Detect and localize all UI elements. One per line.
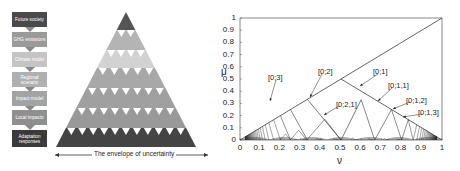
y-tick-label: 0.8 [223,37,234,46]
interval-annotation: [0;1,3] [418,108,439,117]
y-tick-label: 0.1 [223,123,234,132]
interval-annotation: [0;2,1] [336,100,357,109]
y-tick-label: 0.7 [223,50,234,59]
y-tick-label: 0.4 [223,86,234,95]
x-tick-label: 0.7 [375,143,386,152]
interval-annotation: [0;1,2] [406,96,427,105]
x-tick-label: 0.8 [395,143,406,152]
y-tick-label: 0.9 [223,25,234,34]
interval-annotation: [0;1] [373,67,388,76]
x-tick-label: 0.9 [415,143,426,152]
x-tick-label: 0.6 [355,143,366,152]
y-tick-label: 0.3 [223,98,234,107]
y-tick-label: 0 [232,135,236,144]
interval-annotation: [0;3] [268,73,283,82]
y-tick-label: 1 [232,13,236,22]
y-tick-label: 0.2 [223,111,234,120]
x-tick-label: 1 [440,143,444,152]
x-tick-label: 0.5 [334,143,345,152]
x-tick-label: 0.3 [294,143,305,152]
x-axis-label: ν [337,155,342,166]
x-tick-label: 0 [238,143,242,152]
interval-annotation: [0;1,1] [388,81,409,90]
x-tick-label: 0.2 [274,143,285,152]
x-tick-label: 0.4 [314,143,325,152]
x-tick-label: 0.1 [254,143,265,152]
interval-annotation: [0;2] [318,67,333,76]
y-axis-label: μ [221,66,227,77]
